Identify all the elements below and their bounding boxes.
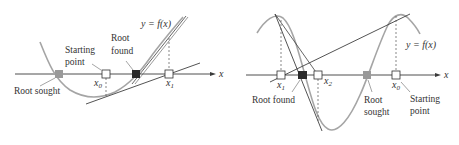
left-root-found-label-1: Root <box>111 33 130 43</box>
right-starting-label-1: Starting <box>410 94 440 104</box>
right-root-sought-leader <box>368 80 372 92</box>
right-axis-label: x <box>443 69 449 80</box>
left-function-curve <box>40 17 183 97</box>
left-x0-label: x0 <box>93 77 102 90</box>
left-root-found-label-2: found <box>111 46 133 56</box>
left-root-found-leader <box>126 61 133 70</box>
right-starting-label-2: point <box>410 106 430 116</box>
right-tangent-at-x0 <box>270 14 410 82</box>
right-tangent-at-x1-b <box>275 14 318 75</box>
right-x0-label: x0 <box>391 79 400 92</box>
left-axis-label: x <box>218 68 224 79</box>
right-root-found-leader <box>292 80 300 92</box>
right-x2-label: x2 <box>323 75 332 88</box>
left-function-label: y = f(x) <box>140 18 172 30</box>
left-starting-point-leader <box>92 64 101 70</box>
left-starting-label-1: Starting <box>65 45 95 55</box>
left-axis-arrow-icon <box>210 72 216 76</box>
left-x0-marker <box>102 70 110 78</box>
right-root-sought-label-2: sought <box>364 107 390 117</box>
right-root-found-marker <box>298 71 307 79</box>
right-starting-point-leader <box>401 82 410 92</box>
left-panel: x y = f(x) Starting point Root found Roo… <box>14 16 224 104</box>
newton-method-diagram: x y = f(x) Starting point Root found Roo… <box>0 0 459 145</box>
left-x1-label: x1 <box>165 77 174 90</box>
left-root-sought-marker <box>55 70 63 78</box>
right-panel: x y = f(x) Root found Root sought Starti… <box>246 14 449 131</box>
left-tangent-at-x0 <box>86 63 200 104</box>
left-root-found-marker <box>132 70 140 78</box>
right-x1-marker <box>277 71 285 79</box>
right-function-label: y = f(x) <box>405 39 437 51</box>
left-root-sought-label: Root sought <box>14 86 61 96</box>
left-root-sought-leader <box>40 78 55 86</box>
right-axis-arrow-icon <box>435 73 441 77</box>
right-x2-marker <box>314 71 322 79</box>
right-root-sought-marker <box>363 71 371 79</box>
left-starting-label-2: point <box>65 57 85 67</box>
right-root-sought-label-1: Root <box>364 95 383 105</box>
right-x1-label: x1 <box>276 79 285 92</box>
right-root-found-label: Root found <box>252 95 295 105</box>
right-x0-marker <box>392 71 400 79</box>
